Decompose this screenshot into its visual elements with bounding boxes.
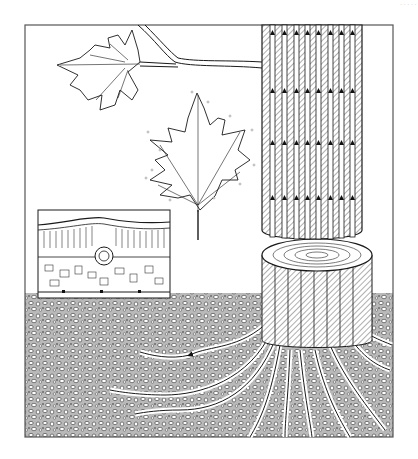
- branch-leaf: [57, 30, 140, 110]
- stump: [262, 239, 372, 348]
- leaf-cross-section-inset: [38, 210, 170, 298]
- trunk: [262, 25, 362, 239]
- vein-bundle: [95, 247, 113, 265]
- tree-water-transport-illustration: [0, 0, 418, 459]
- branch: [138, 25, 262, 68]
